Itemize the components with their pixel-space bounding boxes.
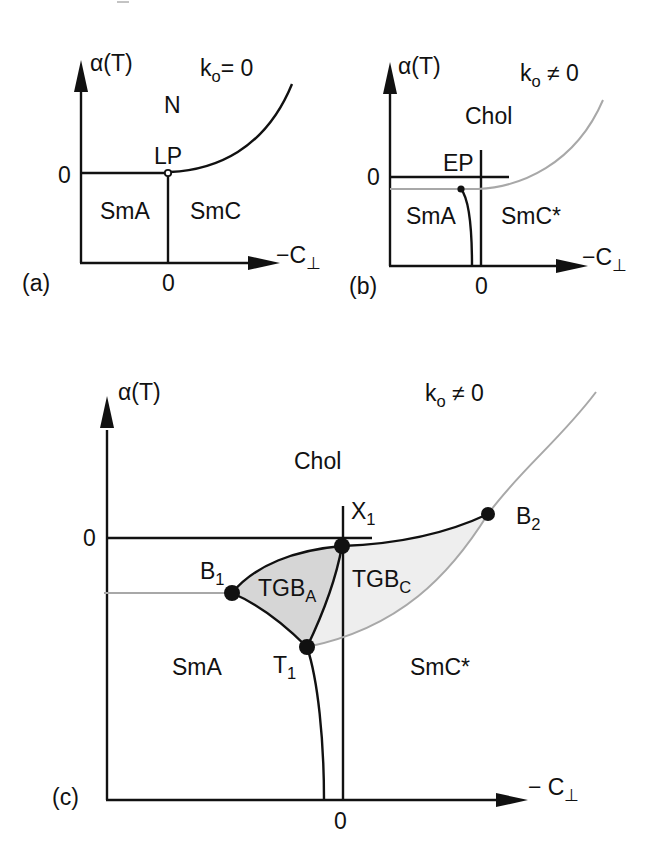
panel-a-x-axis-text: −C xyxy=(276,242,306,268)
panel-c-b1-label: B1 xyxy=(200,560,225,583)
panel-a-y-axis-label: α(T) xyxy=(90,52,133,75)
panel-a-phase-n: N xyxy=(164,94,181,117)
panel-a-x-axis-label: −C⊥ xyxy=(276,244,321,267)
panel-b-x-axis-label: −C⊥ xyxy=(582,246,627,269)
point-x1 xyxy=(334,538,350,554)
panel-b-phase-smc-star: SmC* xyxy=(501,205,561,228)
t1-label-text: T xyxy=(273,652,287,678)
panel-c-phase-smc-star: SmC* xyxy=(410,656,470,679)
panel-c-y-arrow-icon xyxy=(100,396,114,428)
panel-a-lp-point xyxy=(165,170,171,176)
panel-a-phase-smc: SmC xyxy=(190,200,241,223)
b2-label-text: B xyxy=(516,503,531,529)
panel-b-x-axis-sub: ⊥ xyxy=(612,256,627,275)
panel-c-x-axis-sub: ⊥ xyxy=(564,786,579,805)
panel-b-x-zero: 0 xyxy=(475,275,488,298)
panel-c-condition-rel: ≠ 0 xyxy=(452,380,484,406)
panel-a-tag: (a) xyxy=(22,272,50,295)
panel-a-condition-sub: o xyxy=(212,67,221,86)
b1-label-sub: 1 xyxy=(215,570,224,589)
panel-b-graphics xyxy=(383,62,603,273)
tgb-a-label-sub: A xyxy=(305,587,316,606)
panel-c-t1-label: T1 xyxy=(273,654,296,677)
t1-label-sub: 1 xyxy=(287,664,296,683)
panel-a-condition-rel: = 0 xyxy=(221,55,254,81)
panel-c-x1-label: X1 xyxy=(351,500,376,523)
panel-b-condition-sub: o xyxy=(532,72,541,91)
panel-c-phase-chol: Chol xyxy=(294,450,341,473)
panel-b-ep-label: EP xyxy=(443,152,474,175)
x1-label-sub: 1 xyxy=(366,510,375,529)
panel-c-graphics xyxy=(100,392,596,807)
panel-c-condition: ko ≠ 0 xyxy=(425,382,484,405)
panel-a-lp-label: LP xyxy=(154,145,182,168)
panel-b-tag: (b) xyxy=(349,275,377,298)
panel-c-tgb-c-label: TGBC xyxy=(352,568,411,591)
panel-b-y-arrow-icon xyxy=(383,62,397,94)
panel-c-tag: (c) xyxy=(52,786,79,809)
tgb-c-label-text: TGB xyxy=(352,566,399,592)
x1-label-text: X xyxy=(351,498,366,524)
b2-label-sub: 2 xyxy=(531,515,540,534)
panel-a-y-zero: 0 xyxy=(58,164,71,187)
panel-b-y-zero: 0 xyxy=(367,166,380,189)
point-b1 xyxy=(224,585,240,601)
panel-c-condition-k: k xyxy=(425,380,437,406)
panel-b-x-axis-text: −C xyxy=(582,244,612,270)
panel-a-n-smc-boundary xyxy=(170,84,292,172)
panel-c-x-zero: 0 xyxy=(334,810,347,833)
panel-b-sma-boundary xyxy=(461,189,472,266)
panel-c-phase-sma: SmA xyxy=(172,656,222,679)
panel-a-phase-sma: SmA xyxy=(100,200,150,223)
panel-a-condition: ko= 0 xyxy=(200,57,253,80)
panel-a-y-arrow-icon xyxy=(74,60,88,92)
panel-c-y-axis-label: α(T) xyxy=(118,381,161,404)
tgb-c-label-sub: C xyxy=(399,578,411,597)
panel-b-condition: ko ≠ 0 xyxy=(520,62,579,85)
panel-c-x-axis-text: − C xyxy=(528,774,564,800)
panel-b-y-axis-label: α(T) xyxy=(398,55,441,78)
point-b2 xyxy=(481,507,495,521)
panel-c-y-zero: 0 xyxy=(83,527,96,550)
panel-b-ep-point xyxy=(457,185,464,192)
phase-diagram-figure xyxy=(0,0,655,848)
panel-c-tgb-a-label: TGBA xyxy=(258,577,316,600)
panel-c-x-arrow-icon xyxy=(496,793,528,807)
tgb-a-label-text: TGB xyxy=(258,575,305,601)
b1-label-text: B xyxy=(200,558,215,584)
panel-c-b2-label: B2 xyxy=(516,505,541,528)
panel-c-condition-sub: o xyxy=(437,392,446,411)
panel-a-x-axis-sub: ⊥ xyxy=(306,254,321,273)
panel-b-condition-k: k xyxy=(520,60,532,86)
panel-b-phase-sma: SmA xyxy=(406,205,456,228)
panel-a-x-zero: 0 xyxy=(162,272,175,295)
panel-a-graphics xyxy=(74,60,292,270)
panel-b-condition-rel: ≠ 0 xyxy=(547,60,579,86)
panel-a-condition-k: k xyxy=(200,55,212,81)
panel-c-x-axis-label: − C⊥ xyxy=(528,776,579,799)
boundary-t1-down xyxy=(307,647,324,800)
panel-b-phase-chol: Chol xyxy=(465,105,512,128)
point-t1 xyxy=(299,639,315,655)
